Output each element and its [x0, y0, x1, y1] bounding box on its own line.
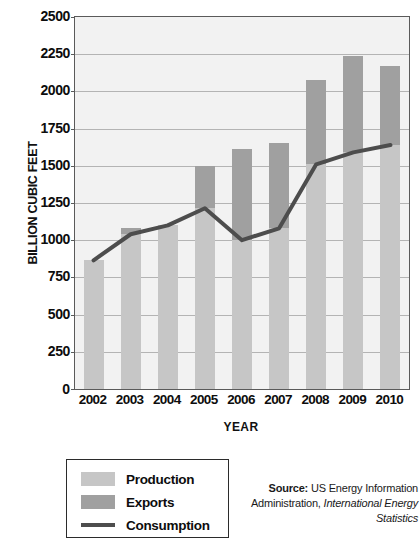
chart-legend: ProductionExportsConsumption [66, 459, 229, 538]
x-axis-tick-2006: 2006 [227, 392, 255, 407]
y-axis-tick-250: 250 [14, 343, 70, 359]
legend-label: Consumption [126, 518, 210, 533]
dark-line-swatch [81, 523, 115, 527]
y-axis-tick-1750: 1750 [14, 120, 70, 136]
y-axis-tick-1500: 1500 [14, 157, 70, 173]
chart-figure: BILLION CUBIC FEET 250500750100012501500… [0, 0, 420, 538]
x-axis-tick-2002: 2002 [79, 392, 107, 407]
plot-area [74, 16, 410, 390]
x-axis-tick-2007: 2007 [264, 392, 292, 407]
y-axis-tick-2500: 2500 [14, 8, 70, 24]
consumption-line [94, 145, 391, 260]
x-axis-tick-2005: 2005 [190, 392, 218, 407]
source-italic-title: International Energy Statistics [324, 497, 418, 524]
x-axis-title: YEAR [74, 420, 408, 434]
source-note: Source: US Energy Information Administra… [246, 481, 418, 526]
y-axis-tick-1250: 1250 [14, 194, 70, 210]
source-prefix: Source: [269, 482, 309, 494]
x-axis-tick-2009: 2009 [339, 392, 367, 407]
consumption-line-layer [75, 17, 409, 389]
y-axis-tick-1000: 1000 [14, 231, 70, 247]
y-axis-tick-2250: 2250 [14, 45, 70, 61]
y-axis-tick-750: 750 [14, 268, 70, 284]
x-axis-tick-2003: 2003 [116, 392, 144, 407]
legend-label: Exports [126, 495, 174, 510]
light-gray-swatch [81, 472, 115, 486]
legend-item-consumption: Consumption [67, 513, 228, 537]
legend-label: Production [126, 472, 194, 487]
y-axis-tick-2000: 2000 [14, 82, 70, 98]
x-axis-tick-2008: 2008 [301, 392, 329, 407]
x-axis-tick-2004: 2004 [153, 392, 181, 407]
y-axis-tickmark [71, 389, 75, 390]
y-axis-tick-500: 500 [14, 306, 70, 322]
dark-gray-swatch [81, 495, 115, 509]
x-axis-tick-2010: 2010 [376, 392, 404, 407]
y-axis-zero-label: 0 [44, 381, 70, 397]
x-axis-tick-labels: 200220032004200520062007200820092010 [74, 392, 410, 414]
legend-item-exports: Exports [67, 490, 228, 514]
legend-item-production: Production [67, 467, 228, 491]
y-axis-tick-labels: 2505007501000125015001750200022502500 [14, 0, 70, 400]
